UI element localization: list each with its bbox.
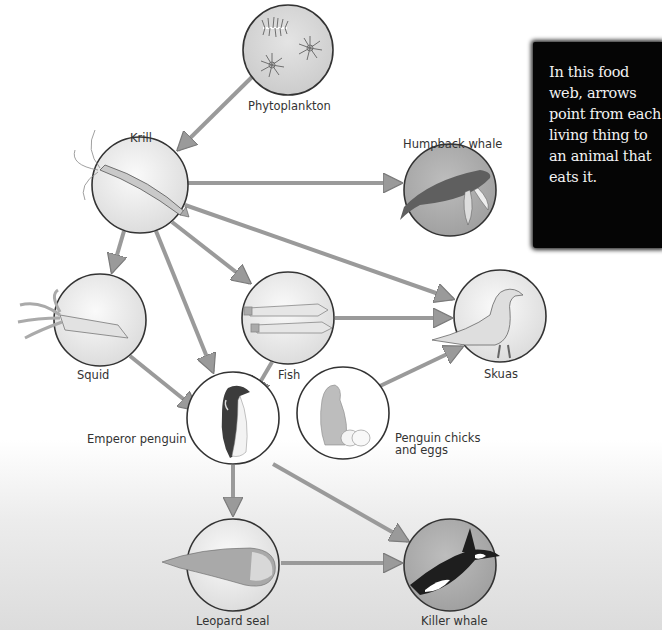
label-leopard-seal: Leopard seal	[196, 615, 269, 627]
label-emperor-penguin: Emperor penguin	[87, 433, 186, 445]
label-skuas: Skuas	[484, 368, 518, 380]
arrow-krill-emperor	[156, 231, 213, 372]
label-phytoplankton: Phytoplankton	[248, 100, 331, 112]
node-fish	[242, 272, 334, 364]
arrow-emperor-orca	[273, 464, 408, 541]
arrow-phyto-krill	[178, 77, 252, 150]
explanation-note: In this food web, arrows point from each…	[533, 42, 662, 248]
label-killer-whale: Killer whale	[421, 615, 488, 627]
arrow-chicks-skuas	[380, 347, 462, 386]
label-squid: Squid	[77, 369, 109, 381]
explanation-text: In this food web, arrows point from each…	[549, 62, 661, 188]
label-penguin-chicks-line2: and eggs	[395, 444, 448, 456]
arrow-krill-fish	[172, 222, 250, 283]
label-humpback-whale: Humpback whale	[403, 138, 502, 150]
label-krill: Krill	[130, 132, 152, 144]
arrow-krill-squid	[112, 231, 124, 272]
arrow-squid-emperor	[130, 356, 197, 410]
label-fish: Fish	[278, 369, 300, 381]
